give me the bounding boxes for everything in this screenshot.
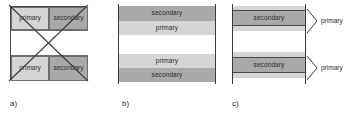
panel-c-callout-top: primary <box>306 8 343 34</box>
panel-b-band-gap <box>119 35 215 54</box>
panel-b-band-primary-bottom: primary <box>119 54 215 68</box>
panel-c-caption: c) <box>232 100 239 108</box>
panel-b-box: secondary primary primary secondary <box>118 6 216 82</box>
panel-c-band-gap <box>233 31 305 52</box>
panel-b: secondary primary primary secondary b) <box>110 0 228 125</box>
panel-c-box: secondary secondary <box>232 6 306 82</box>
panel-b-right-rail <box>215 4 216 84</box>
callout-label: primary <box>321 65 343 72</box>
band-label: primary <box>156 58 178 65</box>
layer-stack-figure: primary secondary primary secondary a) <box>0 0 353 125</box>
panel-b-band-secondary-top: secondary <box>119 6 215 21</box>
panel-b-band-secondary-bottom: secondary <box>119 68 215 82</box>
bracket-right-icon <box>306 55 318 81</box>
panel-c-band-secondary-bottom: secondary <box>233 58 305 72</box>
panel-a-caption: a) <box>10 100 17 108</box>
band-label: primary <box>156 25 178 32</box>
band-label: secondary <box>254 62 285 69</box>
band-label: secondary <box>152 10 183 17</box>
panel-c-callout-bottom: primary <box>306 55 343 81</box>
panel-c-band-primary-bottom-outer <box>233 73 305 78</box>
panel-b-band-primary-top: primary <box>119 21 215 35</box>
band-label: secondary <box>254 15 285 22</box>
callout-label: primary <box>321 18 343 25</box>
panel-c-band-secondary-top: secondary <box>233 11 305 25</box>
panel-b-caption: b) <box>122 100 129 108</box>
cross-out-icon <box>8 4 89 82</box>
bracket-right-icon <box>306 8 318 34</box>
band-label: secondary <box>152 72 183 79</box>
panel-c: secondary secondary <box>228 0 353 125</box>
panel-a: primary secondary primary secondary a) <box>0 0 110 125</box>
